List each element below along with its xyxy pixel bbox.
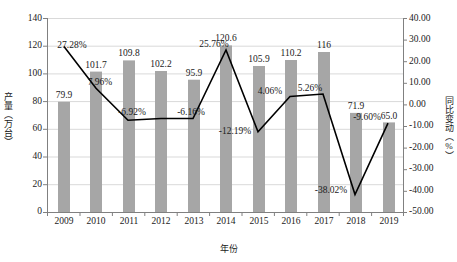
- pct-label-2014: 25.76%: [199, 39, 228, 49]
- bar-label-2010: 101.7: [85, 60, 106, 70]
- bar-label-2015: 105.9: [248, 54, 269, 64]
- bar-2011: [123, 60, 135, 212]
- bar-label-2016: 110.2: [280, 48, 301, 58]
- bar-label-2013: 95.9: [186, 68, 203, 78]
- bar-2018: [350, 113, 362, 212]
- bar-2012: [155, 71, 167, 212]
- bar-2016: [285, 60, 297, 212]
- bar-label-2019: 65.0: [381, 111, 398, 121]
- pct-label-2013: -6.16%: [177, 107, 205, 117]
- pct-label-2011: -6.92%: [118, 107, 146, 117]
- x-axis-ticks: [48, 213, 404, 217]
- bar-label-2011: 109.8: [118, 48, 139, 58]
- bar-label-2018: 71.9: [348, 101, 365, 111]
- pct-label-2018: -38.02%: [315, 185, 347, 195]
- bar-label-2012: 102.2: [150, 59, 171, 69]
- pct-label-2017: 5.26%: [298, 83, 323, 93]
- bar-2009: [58, 102, 70, 213]
- bar-label-2009: 79.9: [56, 90, 73, 100]
- y-axis-left-ticks: [43, 19, 47, 213]
- bar-2019: [383, 122, 395, 212]
- chart-container: 产量（万台） 同比变动（%） 年份 140 120 100 80 60 40 2…: [0, 0, 457, 262]
- pct-label-2019: -9.60%: [353, 112, 381, 122]
- bar-2013: [188, 80, 200, 213]
- pct-label-2015: -12.19%: [219, 126, 251, 136]
- bar-label-2017: 116: [317, 40, 331, 50]
- pct-label-2010: 7.96%: [88, 77, 113, 87]
- pct-label-2016: 4.06%: [258, 86, 283, 96]
- pct-label-2009: 27.28%: [57, 40, 86, 50]
